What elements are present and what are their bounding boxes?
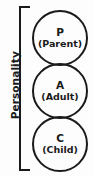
personality-bracket-label: Personality bbox=[10, 43, 21, 127]
ego-state-circle-child: C (Child) bbox=[32, 116, 88, 172]
ego-state-circle-parent: P (Parent) bbox=[32, 10, 88, 66]
ego-state-name-parent: (Parent) bbox=[38, 39, 82, 49]
ego-state-circle-adult: A (Adult) bbox=[32, 63, 88, 119]
ego-state-letter-child: C bbox=[56, 133, 64, 144]
ego-state-name-child: (Child) bbox=[42, 145, 78, 155]
ego-state-letter-adult: A bbox=[56, 80, 64, 91]
ego-state-name-adult: (Adult) bbox=[41, 92, 78, 102]
pac-personality-diagram: Personality P (Parent) A (Adult) C (Chil… bbox=[0, 0, 94, 177]
ego-state-letter-parent: P bbox=[56, 27, 64, 38]
